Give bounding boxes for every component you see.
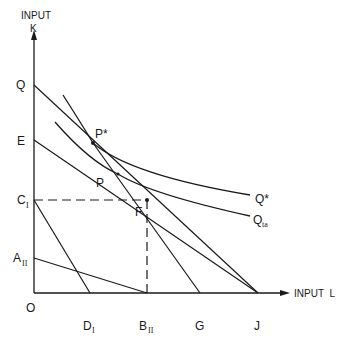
x-axis-arrow-icon	[280, 290, 290, 296]
label-B: B	[139, 319, 147, 333]
origin-label: O	[26, 301, 35, 315]
point-F	[145, 198, 149, 202]
y-axis-title-line2: K	[30, 23, 37, 34]
label-D-sub: I	[92, 326, 95, 335]
label-A-sub: II	[22, 259, 28, 268]
curve-Q-ta	[55, 122, 250, 216]
label-Q-ta-sub: ta	[262, 220, 268, 229]
label-C-sub: I	[26, 201, 29, 210]
label-J: J	[254, 319, 260, 333]
label-P: P	[96, 176, 104, 190]
line-AII-BII	[34, 258, 147, 293]
curve-Q-star	[63, 95, 250, 195]
label-D: D	[83, 319, 92, 333]
isoquant-diagram: INPUT K INPUT L O Q E C I A II D I B II …	[0, 0, 351, 342]
label-C: C	[17, 193, 26, 207]
label-B-sub: II	[148, 326, 154, 335]
label-G: G	[195, 319, 204, 333]
label-E: E	[17, 134, 25, 148]
x-axis-title: INPUT L	[294, 288, 335, 299]
point-P-star	[91, 141, 95, 145]
label-P-star: P*	[95, 127, 108, 141]
label-Q: Q	[16, 78, 25, 92]
label-F: F	[135, 205, 142, 219]
point-P	[116, 172, 119, 175]
line-Q-J	[34, 85, 258, 293]
label-Q-star: Q*	[255, 192, 269, 206]
y-axis-title-line1: INPUT	[21, 10, 51, 21]
line-CI-DI	[34, 200, 90, 293]
label-Q-ta: Q	[253, 213, 262, 227]
label-A: A	[13, 251, 21, 265]
